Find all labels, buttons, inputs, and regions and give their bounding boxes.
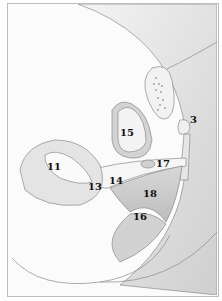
label-18: 18 bbox=[143, 189, 157, 199]
label-16: 16 bbox=[133, 212, 147, 222]
label-13: 13 bbox=[88, 182, 102, 192]
label-11: 11 bbox=[47, 162, 61, 172]
sacrum bbox=[145, 67, 174, 120]
label-15: 15 bbox=[120, 128, 134, 138]
label-14: 14 bbox=[109, 176, 123, 186]
anatomy-illustration bbox=[0, 0, 222, 301]
label-3: 3 bbox=[190, 115, 197, 125]
label-17: 17 bbox=[156, 159, 170, 169]
organ-17 bbox=[141, 160, 155, 168]
structure-3 bbox=[178, 120, 190, 135]
